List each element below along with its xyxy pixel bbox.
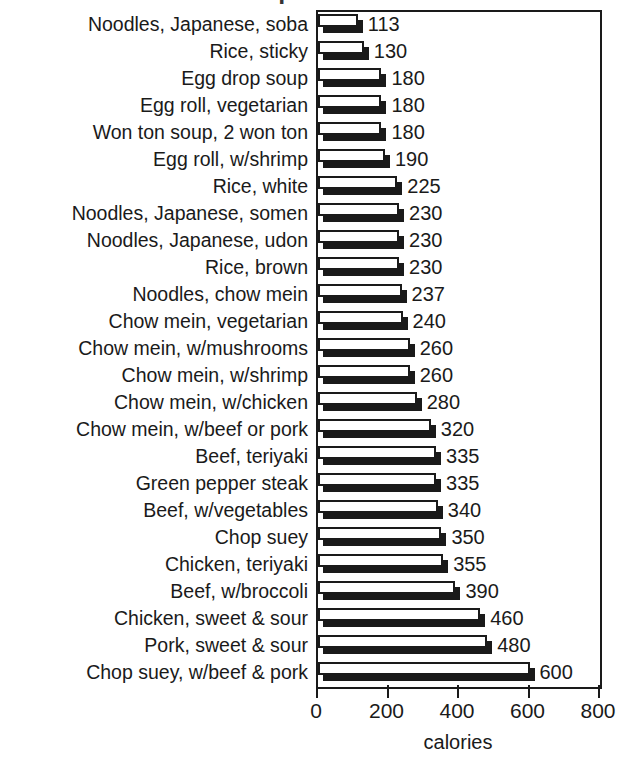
bar-body (318, 176, 397, 189)
bar-body (318, 473, 436, 486)
bar (318, 172, 397, 200)
bar (318, 361, 410, 389)
bar-row: Chow mein, w/mushrooms260 (0, 334, 633, 362)
category-label: Beef, teriyaki (195, 442, 308, 470)
value-label: 335 (446, 442, 479, 470)
value-label: 390 (465, 577, 498, 605)
bar-row: Egg roll, vegetarian180 (0, 91, 633, 119)
bar-row: Egg roll, w/shrimp190 (0, 145, 633, 173)
category-label: Pork, sweet & sour (144, 631, 308, 659)
value-label: 280 (427, 388, 460, 416)
value-label: 230 (409, 226, 442, 254)
bar-body (318, 338, 410, 351)
category-label: Rice, brown (205, 253, 308, 281)
bar-row: Rice, sticky130 (0, 37, 633, 65)
x-axis-tick (387, 685, 389, 698)
bar (318, 253, 399, 281)
bar (318, 550, 443, 578)
bar-row: Noodles, chow mein237 (0, 280, 633, 308)
bar-body (318, 284, 402, 297)
bar (318, 577, 455, 605)
bar-body (318, 662, 530, 675)
category-label: Egg roll, vegetarian (140, 91, 308, 119)
x-axis-tick-label: 200 (369, 699, 404, 723)
category-label: Egg drop soup (181, 64, 308, 92)
bar-body (318, 149, 385, 162)
value-label: 340 (448, 496, 481, 524)
x-axis-tick-label: 400 (439, 699, 474, 723)
bar-body (318, 581, 455, 594)
bar-row: Chow mein, vegetarian240 (0, 307, 633, 335)
bar (318, 307, 403, 335)
bar-row: Chop suey350 (0, 523, 633, 551)
category-label: Chow mein, w/mushrooms (78, 334, 308, 362)
bar-body (318, 68, 381, 81)
bar (318, 631, 487, 659)
category-label: Chicken, sweet & sour (114, 604, 308, 632)
bar (318, 37, 364, 65)
bar-body (318, 203, 399, 216)
category-label: Chow mein, w/chicken (114, 388, 308, 416)
bar-row: Beef, w/vegetables340 (0, 496, 633, 524)
bar-body (318, 95, 381, 108)
value-label: 320 (441, 415, 474, 443)
bar (318, 523, 441, 551)
bar (318, 604, 480, 632)
bar-body (318, 500, 438, 513)
bar-row: Rice, brown230 (0, 253, 633, 281)
value-label: 113 (368, 10, 400, 38)
bar-body (318, 554, 443, 567)
x-axis-tick (316, 685, 318, 698)
bar-body (318, 41, 364, 54)
category-label: Chop suey, w/beef & pork (86, 658, 308, 686)
bar (318, 199, 399, 227)
bar-body (318, 635, 487, 648)
x-axis-title: calories (316, 731, 600, 754)
bar (318, 280, 402, 308)
value-label: 600 (540, 658, 573, 686)
bar (318, 118, 381, 146)
bar-row: Beef, w/broccoli390 (0, 577, 633, 605)
bar-body (318, 608, 480, 621)
bar-row: Chicken, teriyaki355 (0, 550, 633, 578)
bar (318, 388, 417, 416)
bar-row: Green pepper steak335 (0, 469, 633, 497)
category-label: Chow mein, vegetarian (109, 307, 308, 335)
category-label: Noodles, Japanese, soba (88, 10, 308, 38)
category-label: Beef, w/broccoli (170, 577, 308, 605)
x-axis-tick (528, 685, 530, 698)
value-label: 180 (391, 91, 424, 119)
x-axis-tick-label: 0 (310, 699, 322, 723)
value-label: 230 (409, 199, 442, 227)
bar-body (318, 14, 358, 27)
bar (318, 226, 399, 254)
x-axis-tick (598, 685, 600, 698)
category-label: Chop suey (215, 523, 308, 551)
category-label: Rice, sticky (209, 37, 308, 65)
value-label: 130 (374, 37, 407, 65)
bar (318, 415, 431, 443)
category-label: Chow mein, w/shrimp (122, 361, 308, 389)
bar-body (318, 365, 410, 378)
bar-row: Chow mein, w/chicken280 (0, 388, 633, 416)
bar (318, 469, 436, 497)
value-label: 335 (446, 469, 479, 497)
bar (318, 496, 438, 524)
bar (318, 145, 385, 173)
bar-row: Noodles, Japanese, somen230 (0, 199, 633, 227)
bar-row: Chow mein, w/beef or pork320 (0, 415, 633, 443)
value-label: 225 (407, 172, 440, 200)
bar (318, 334, 410, 362)
category-label: Noodles, Japanese, udon (87, 226, 308, 254)
value-label: 480 (497, 631, 530, 659)
bar-body (318, 419, 431, 432)
bar-body (318, 446, 436, 459)
category-label: Noodles, chow mein (132, 280, 308, 308)
bar-row: Noodles, Japanese, soba113 (0, 10, 633, 38)
value-label: 260 (420, 334, 453, 362)
category-label: Egg roll, w/shrimp (153, 145, 308, 173)
value-label: 230 (409, 253, 442, 281)
bar (318, 91, 381, 119)
bar (318, 442, 436, 470)
value-label: 355 (453, 550, 486, 578)
